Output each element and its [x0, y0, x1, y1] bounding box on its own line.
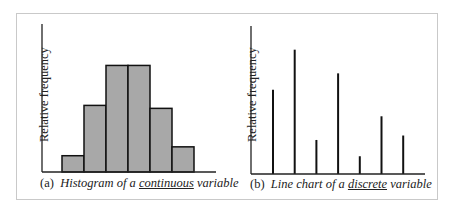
caption-label: (b)	[250, 177, 265, 191]
linechart-y-axis-label: Relative frequency	[245, 47, 260, 142]
histogram-bar	[172, 147, 194, 172]
caption-text: Histogram of a	[60, 176, 139, 190]
histogram-chart	[42, 24, 216, 172]
histogram-bar	[128, 65, 150, 172]
linechart-caption: (b) Line chart of a discrete variable	[250, 177, 432, 192]
caption-emphasis: discrete	[348, 177, 387, 191]
caption-label: (a)	[40, 176, 54, 190]
histogram-bar	[62, 156, 84, 172]
caption-emphasis: continuous	[139, 176, 194, 190]
line-chart	[251, 26, 425, 174]
histogram-caption: (a) Histogram of a continuous variable	[40, 176, 239, 191]
histogram-bar	[106, 65, 128, 172]
caption-text-end: variable	[387, 177, 432, 191]
caption-text-end: variable	[194, 176, 239, 190]
caption-text: Line chart of a	[271, 177, 348, 191]
histogram-bar	[150, 108, 172, 172]
histogram-bar	[84, 105, 106, 172]
histogram-y-axis-label: Relative frequency	[37, 47, 52, 142]
